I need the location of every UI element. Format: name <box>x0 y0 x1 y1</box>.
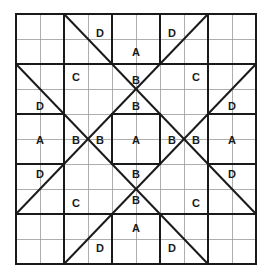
label-c-upper-left: C <box>72 71 80 83</box>
label-b-right-inner: B <box>168 134 176 146</box>
label-d-right-lower: D <box>228 168 236 180</box>
label-b-left-inner: B <box>96 134 104 146</box>
label-a-left: A <box>36 134 44 146</box>
label-d-left-upper: D <box>36 100 44 112</box>
label-a-center: A <box>132 134 140 146</box>
label-a-right: A <box>228 134 236 146</box>
label-d-bottom-right: D <box>168 242 176 254</box>
label-b-center-upper: B <box>132 100 140 112</box>
label-b-lower-center: B <box>132 194 140 206</box>
label-d-bottom-left: D <box>96 242 104 254</box>
label-d-top-left: D <box>96 27 104 39</box>
label-b-left-outer: B <box>72 134 80 146</box>
label-d-top-right: D <box>168 27 176 39</box>
label-b-upper-center: B <box>132 74 140 86</box>
label-b-right-outer: B <box>192 134 200 146</box>
quilt-block-svg: DDACBCDBDABBABBADBDCBCADD <box>0 0 271 278</box>
label-d-right-upper: D <box>228 100 236 112</box>
label-d-left-lower: D <box>36 168 44 180</box>
label-c-lower-left: C <box>72 197 80 209</box>
label-a-bottom: A <box>132 222 140 234</box>
label-c-lower-right: C <box>192 197 200 209</box>
quilt-block-figure: DDACBCDBDABBABBADBDCBCADD <box>0 0 271 278</box>
label-c-upper-right: C <box>192 71 200 83</box>
label-a-top: A <box>132 46 140 58</box>
label-b-center-lower: B <box>132 168 140 180</box>
